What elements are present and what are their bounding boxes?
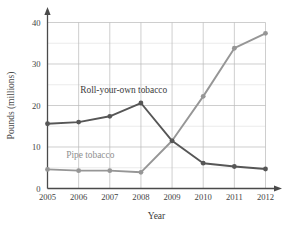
x-tick-label: 2009 [163,192,180,202]
y-tick-label: 20 [32,101,41,111]
x-tick-label: 2010 [195,192,212,202]
data-point-marker [139,170,144,175]
y-tick-label: 40 [32,18,41,28]
line-chart: 0102030402005200620072008200920102011201… [0,0,286,234]
y-tick-label: 30 [32,59,41,69]
x-tick-label: 2008 [132,192,149,202]
x-axis-arrow-icon [274,185,282,191]
data-point-marker [107,168,112,173]
series-annotation-label: Roll-your-own tobacco [80,85,167,95]
y-axis-arrow-icon [44,7,50,15]
x-tick-label: 2006 [70,192,88,202]
data-point-marker [107,114,112,119]
series-annotation-label: Pipe tobacco [66,150,114,160]
data-point-marker [139,101,144,106]
data-point-marker [232,164,237,169]
data-point-marker [232,46,237,51]
y-axis-title: Pounds (millions) [6,72,17,140]
x-tick-label: 2005 [39,192,56,202]
data-point-marker [263,31,268,36]
data-point-marker [76,120,81,125]
data-point-marker [76,168,81,173]
data-point-marker [263,167,268,172]
data-point-marker [45,167,50,172]
data-point-marker [201,94,206,99]
data-point-marker [45,121,50,126]
x-axis-title: Year [148,211,166,221]
x-tick-label: 2012 [257,192,274,202]
chart-figure: 0102030402005200620072008200920102011201… [0,0,286,234]
x-tick-label: 2007 [101,192,119,202]
data-point-marker [201,161,206,166]
data-point-marker [170,138,175,143]
y-tick-label: 10 [32,142,41,152]
x-tick-label: 2011 [226,192,243,202]
